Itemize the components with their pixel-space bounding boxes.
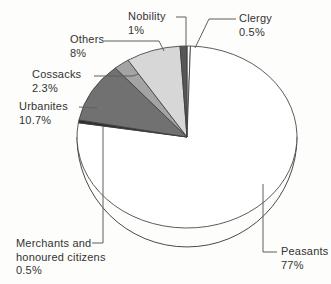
- slice-label: Merchants and honoured citizens: [16, 237, 112, 264]
- callout-clergy: Clergy 0.5%: [239, 12, 272, 39]
- slice-label: Cossacks: [32, 68, 81, 82]
- leader-line-nobility: [176, 17, 186, 47]
- slice-percent: 2.3%: [32, 82, 81, 96]
- slice-label: Nobility: [128, 10, 166, 24]
- leader-line-clergy: [195, 19, 236, 48]
- slice-label: Urbanites: [19, 100, 68, 114]
- slice-percent: 0.5%: [16, 264, 112, 278]
- slice-percent: 77%: [281, 259, 328, 273]
- slice-percent: 0.5%: [239, 26, 272, 40]
- callout-urbanites: Urbanites 10.7%: [19, 100, 68, 127]
- slice-percent: 8%: [70, 47, 104, 61]
- callout-merchants: Merchants and honoured citizens 0.5%: [16, 237, 112, 278]
- slice-percent: 10.7%: [19, 114, 68, 128]
- pie-chart-figure: Nobility 1% Clergy 0.5% Others 8% Cossac…: [0, 0, 331, 284]
- callout-peasants: Peasants 77%: [281, 245, 328, 272]
- callout-cossacks: Cossacks 2.3%: [32, 68, 81, 95]
- slice-percent: 1%: [128, 24, 166, 38]
- callout-others: Others 8%: [70, 33, 104, 60]
- slice-label: Others: [70, 33, 104, 47]
- callout-nobility: Nobility 1%: [128, 10, 166, 37]
- slice-label: Clergy: [239, 12, 272, 26]
- slice-label: Peasants: [281, 245, 328, 259]
